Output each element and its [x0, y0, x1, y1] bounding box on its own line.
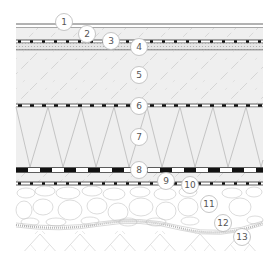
callout-9: 9 [158, 173, 175, 190]
callout-3: 3 [103, 33, 120, 50]
svg-text:5: 5 [136, 70, 142, 80]
callout-10: 10 [182, 177, 199, 194]
svg-text:11: 11 [203, 199, 214, 209]
svg-text:3: 3 [108, 36, 114, 46]
svg-text:7: 7 [136, 132, 142, 142]
callout-5: 5 [131, 67, 148, 84]
layer-13-subsoil [16, 231, 263, 251]
callout-6: 6 [131, 98, 148, 115]
callout-12: 12 [215, 215, 232, 232]
callout-1: 1 [56, 14, 73, 31]
svg-text:8: 8 [136, 165, 142, 175]
svg-text:9: 9 [163, 176, 169, 186]
callout-7: 7 [131, 129, 148, 146]
svg-text:4: 4 [136, 42, 142, 52]
svg-text:2: 2 [84, 29, 90, 39]
callout-4: 4 [131, 39, 148, 56]
callout-13: 13 [234, 229, 251, 246]
layer-1-top-covering [16, 24, 263, 28]
callout-2: 2 [79, 26, 96, 43]
svg-text:10: 10 [184, 180, 196, 190]
svg-text:1: 1 [61, 17, 67, 27]
svg-text:6: 6 [136, 101, 142, 111]
callout-8: 8 [131, 162, 148, 179]
layer-section-diagram: 1 2 3 4 5 6 7 8 9 10 11 12 13 [0, 0, 279, 256]
layer-10-membrane [16, 182, 263, 185]
svg-text:12: 12 [217, 218, 228, 228]
svg-text:13: 13 [236, 232, 247, 242]
callout-11: 11 [201, 196, 218, 213]
